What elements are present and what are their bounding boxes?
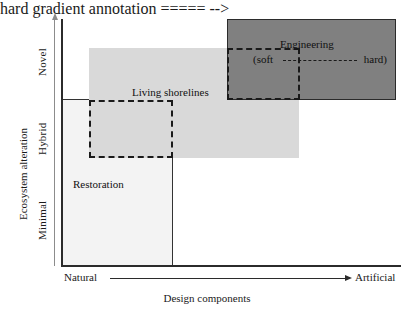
x-axis-direction-line	[110, 278, 346, 279]
conceptual-diagram: Novel Hybrid Minimal Ecosystem alteratio…	[0, 0, 414, 311]
y-axis-tick-minimal: Minimal	[36, 201, 48, 240]
x-axis-line	[61, 265, 401, 267]
x-axis-title: Design components	[0, 292, 414, 304]
y-axis-tick-novel: Novel	[36, 48, 48, 76]
y-axis-tick-hybrid: Hybrid	[36, 123, 48, 155]
y-axis-arrow-icon	[52, 13, 58, 20]
engineering-gradient-hard-label: hard)	[364, 53, 387, 65]
y-axis-direction-line	[54, 19, 55, 266]
engineering-gradient-annotation: (soft hard)	[253, 53, 387, 67]
x-axis-tick-natural: Natural	[64, 271, 97, 283]
region-label-living-shorelines: Living shorelines	[132, 86, 209, 98]
dashed-box-restoration-living-overlap	[89, 100, 173, 158]
region-label-engineering: Engineering	[280, 38, 334, 50]
y-axis-line	[61, 19, 63, 267]
x-axis-tick-artificial: Artificial	[355, 271, 395, 283]
region-label-restoration: Restoration	[73, 178, 124, 190]
engineering-gradient-soft-label: (soft	[253, 53, 273, 65]
y-axis-title: Ecosystem alteration	[17, 128, 29, 220]
engineering-gradient-connector	[283, 60, 357, 61]
x-axis-arrow-icon	[345, 275, 352, 281]
